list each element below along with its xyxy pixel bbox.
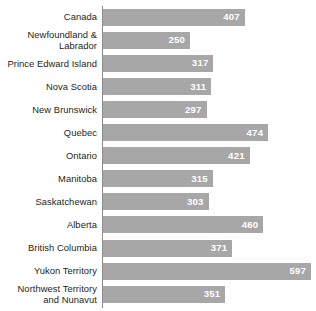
horizontal-bar-chart: Canada407Newfoundland & Labrador250Princ… (0, 0, 316, 311)
bar-row: Saskatchewan303 (0, 193, 316, 210)
bar-row: Newfoundland & Labrador250 (0, 32, 316, 49)
category-label: Prince Edward Island (0, 55, 97, 72)
bar-value-label: 250 (169, 35, 186, 45)
bar-row: New Brunswick297 (0, 101, 316, 118)
bar-row: Northwest Territory and Nunavut351 (0, 286, 316, 303)
bar-container: 317 (103, 55, 213, 72)
bar: 311 (103, 78, 211, 95)
bar-row: Prince Edward Island317 (0, 55, 316, 72)
bar-value-label: 297 (185, 105, 202, 115)
bar: 351 (103, 286, 225, 303)
category-label: Ontario (0, 147, 97, 164)
bar-container: 371 (103, 240, 232, 257)
bar-container: 303 (103, 193, 209, 210)
bar-value-label: 303 (187, 197, 204, 207)
bar-value-label: 351 (204, 289, 221, 299)
bar: 317 (103, 55, 213, 72)
bar-row: Manitoba315 (0, 170, 316, 187)
bar-container: 407 (103, 9, 245, 26)
bar-container: 351 (103, 286, 225, 303)
bar: 460 (103, 216, 263, 233)
bar: 474 (103, 124, 268, 141)
bar-value-label: 460 (242, 220, 259, 230)
bar-value-label: 421 (228, 151, 245, 161)
bar-row: Alberta460 (0, 216, 316, 233)
bar-value-label: 311 (190, 82, 206, 92)
bar-row: Canada407 (0, 9, 316, 26)
bar: 303 (103, 193, 209, 210)
bar-container: 315 (103, 170, 213, 187)
category-label: Newfoundland & Labrador (0, 32, 97, 49)
category-label: Quebec (0, 124, 97, 141)
bar-container: 421 (103, 147, 250, 164)
bar: 315 (103, 170, 213, 187)
category-label: Manitoba (0, 170, 97, 187)
bar-value-label: 315 (191, 174, 208, 184)
category-label: Yukon Territory (0, 263, 97, 280)
bar-container: 460 (103, 216, 263, 233)
bar: 371 (103, 240, 232, 257)
bar-row: Nova Scotia311 (0, 78, 316, 95)
bar-value-label: 474 (247, 128, 264, 138)
bar: 407 (103, 9, 245, 26)
bar: 250 (103, 32, 190, 49)
bar-row: Ontario421 (0, 147, 316, 164)
category-label: Alberta (0, 216, 97, 233)
bar-value-label: 407 (223, 12, 240, 22)
bar-value-label: 317 (192, 58, 209, 68)
bar-container: 297 (103, 101, 207, 118)
bar-container: 597 (103, 263, 311, 280)
category-label: New Brunswick (0, 101, 97, 118)
category-label: Saskatchewan (0, 193, 97, 210)
category-label: British Columbia (0, 240, 97, 257)
bar-container: 250 (103, 32, 190, 49)
bar-row: Yukon Territory597 (0, 263, 316, 280)
bar-row: Quebec474 (0, 124, 316, 141)
bar-container: 311 (103, 78, 211, 95)
bar-value-label: 371 (211, 243, 228, 253)
bar-container: 474 (103, 124, 268, 141)
bar: 297 (103, 101, 207, 118)
bar-row: British Columbia371 (0, 240, 316, 257)
bar: 421 (103, 147, 250, 164)
bar-value-label: 597 (289, 266, 306, 276)
category-label: Northwest Territory and Nunavut (0, 286, 97, 303)
bar: 597 (103, 263, 311, 280)
category-label: Canada (0, 9, 97, 26)
category-label: Nova Scotia (0, 78, 97, 95)
